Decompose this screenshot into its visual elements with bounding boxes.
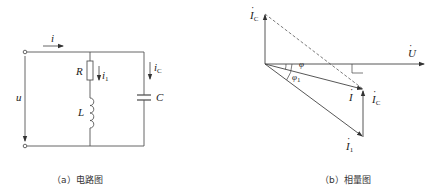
capacitor-current-side-label: IC — [372, 94, 380, 107]
phi1-subscript: 1 — [297, 76, 301, 84]
figure-canvas — [0, 0, 435, 194]
voltage-phasor-symbol: U — [408, 48, 416, 59]
capacitor-current-top-label: IC — [250, 10, 258, 23]
branch1-current-phasor — [265, 64, 362, 136]
circuit-caption: （a）电路图 — [52, 173, 103, 186]
capacitor-current-top-subscript: C — [254, 15, 259, 23]
parallelogram-dashed-line — [265, 14, 363, 89]
inductor-label: L — [78, 107, 84, 118]
phi1-label: φ1 — [292, 73, 300, 84]
phasor-diagram — [265, 14, 424, 137]
phi-label: φ — [299, 60, 304, 69]
capacitor-current-side-subscript: C — [376, 99, 381, 107]
branch1-current-phasor-subscript: 1 — [350, 146, 354, 154]
total-current-phasor-symbol: I — [349, 92, 353, 103]
branch1-current-phasor-label: I1 — [346, 141, 353, 154]
capacitor-current-top-symbol: I — [250, 10, 254, 21]
resistor-label: R — [76, 66, 83, 77]
capacitor-current-label: iC — [154, 62, 162, 75]
branch1-current-label: i1 — [102, 70, 109, 83]
total-current-label: i — [51, 33, 54, 44]
capacitor-label: C — [156, 92, 163, 103]
resistor-symbol — [87, 61, 93, 80]
total-current-phasor-label: I — [349, 92, 353, 103]
voltage-label: u — [16, 92, 22, 103]
branch1-current-phasor-symbol: I — [346, 141, 350, 152]
phi-angle-arc — [285, 64, 286, 69]
inductor-symbol — [90, 98, 94, 128]
right-angle-marker — [352, 64, 363, 73]
capacitor-current-subscript: C — [157, 67, 162, 75]
bottom-terminal — [23, 144, 27, 148]
voltage-phasor-label: U — [408, 48, 416, 59]
capacitor-current-side-symbol: I — [372, 94, 376, 105]
branch1-current-subscript: 1 — [105, 75, 109, 83]
phasor-caption: （b）相量图 — [320, 173, 371, 186]
top-terminal — [23, 50, 27, 54]
circuit-diagram — [23, 46, 151, 148]
total-current-phasor — [265, 64, 362, 89]
